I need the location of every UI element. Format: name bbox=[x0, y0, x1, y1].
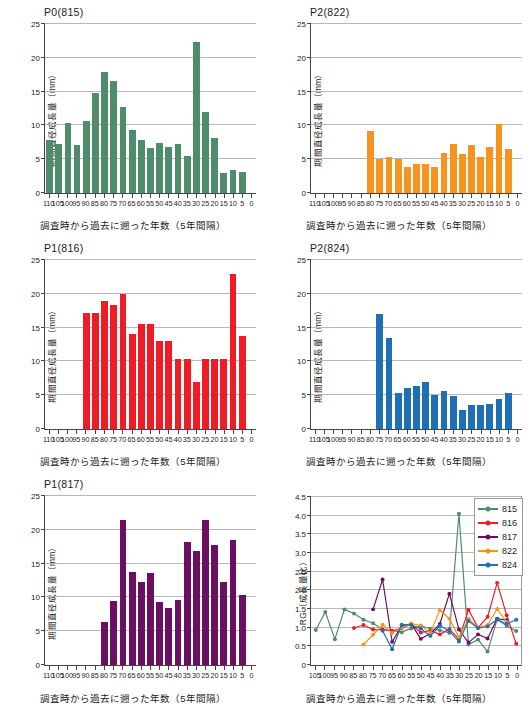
bar-slot bbox=[504, 24, 513, 193]
data-point-817 bbox=[467, 641, 471, 645]
bar bbox=[110, 305, 117, 429]
y-tick-label: 5 bbox=[302, 155, 306, 164]
x-tick-label: 55 bbox=[146, 199, 154, 208]
bar bbox=[404, 388, 411, 429]
bar bbox=[496, 399, 503, 429]
x-tick-label: 55 bbox=[412, 435, 420, 444]
x-tick-mark bbox=[459, 666, 460, 670]
x-tick-label: 10 bbox=[495, 199, 503, 208]
x-tick-mark bbox=[122, 666, 123, 670]
bar bbox=[165, 341, 172, 429]
bar-slot bbox=[192, 260, 201, 429]
bar bbox=[175, 359, 182, 429]
x-tick-label: 60 bbox=[398, 671, 406, 680]
bar-slot bbox=[320, 24, 329, 193]
legend-item-815[interactable]: 815 bbox=[478, 502, 517, 516]
bar-slot bbox=[467, 260, 476, 429]
x-tick-marks-p1-817 bbox=[44, 666, 256, 670]
x-tick-mark bbox=[370, 194, 371, 198]
x-tick-mark bbox=[517, 430, 518, 434]
x-tick-mark bbox=[141, 194, 142, 198]
bar-slot bbox=[375, 260, 384, 429]
x-axis-label-rg-ratio: 調査時から過去に遡った年数（5年間隔） bbox=[266, 691, 532, 705]
bar-slot bbox=[82, 260, 91, 429]
x-tick-label: 20 bbox=[477, 199, 485, 208]
y-tick-label: 25 bbox=[31, 256, 40, 265]
x-tick-labels-rg-ratio: 1051009590858075706560555045403530252015… bbox=[296, 671, 532, 683]
x-tick-mark bbox=[85, 430, 86, 434]
x-tick-mark bbox=[141, 430, 142, 434]
x-tick-mark bbox=[49, 666, 50, 670]
x-tick-label: 45 bbox=[430, 199, 438, 208]
bar-slot bbox=[412, 260, 421, 429]
data-point-817 bbox=[381, 578, 385, 582]
data-point-824 bbox=[390, 647, 394, 651]
bar bbox=[165, 608, 172, 665]
legend-item-824[interactable]: 824 bbox=[478, 558, 517, 572]
bar-slot bbox=[45, 24, 54, 193]
x-tick-mark bbox=[462, 430, 463, 434]
legend-swatch-816 bbox=[478, 522, 498, 524]
x-tick-label: 30 bbox=[458, 199, 466, 208]
data-point-816 bbox=[514, 642, 518, 646]
y-tick-label: 25 bbox=[31, 20, 40, 29]
bar-slot bbox=[118, 496, 127, 665]
data-point-815 bbox=[352, 612, 356, 616]
x-tick-label: 70 bbox=[384, 435, 392, 444]
x-tick-mark bbox=[233, 430, 234, 434]
bar-slot bbox=[384, 260, 393, 429]
x-tick-mark bbox=[407, 430, 408, 434]
chart-legend-rg-ratio: 815816817822824 bbox=[474, 498, 523, 576]
x-tick-label: 70 bbox=[384, 199, 392, 208]
x-tick-mark bbox=[444, 430, 445, 434]
bar bbox=[230, 170, 237, 193]
bar-slot bbox=[54, 496, 63, 665]
x-tick-mark bbox=[471, 430, 472, 434]
bar-slot bbox=[164, 24, 173, 193]
bar-slot bbox=[247, 24, 256, 193]
bar bbox=[184, 542, 191, 665]
bar bbox=[477, 405, 484, 429]
bar-slot bbox=[45, 496, 54, 665]
x-tick-mark bbox=[85, 194, 86, 198]
x-tick-label: 75 bbox=[109, 671, 117, 680]
bar bbox=[404, 167, 411, 193]
bar-slot bbox=[247, 496, 256, 665]
x-axis-label-p1-817: 調査時から過去に遡った年数（5年間隔） bbox=[0, 691, 266, 705]
chart-title-p2-822: P2(822) bbox=[310, 6, 349, 18]
bar-slot bbox=[357, 24, 366, 193]
legend-item-817[interactable]: 817 bbox=[478, 530, 517, 544]
bar bbox=[211, 359, 218, 429]
x-tick-label: 35 bbox=[449, 435, 457, 444]
x-tick-label: 55 bbox=[146, 435, 154, 444]
x-tick-label: 80 bbox=[359, 671, 367, 680]
bar-slot bbox=[73, 260, 82, 429]
bar bbox=[441, 153, 448, 193]
bar bbox=[459, 410, 466, 429]
bar bbox=[431, 167, 438, 193]
bar-slot bbox=[63, 496, 72, 665]
x-tick-mark bbox=[402, 666, 403, 670]
legend-label-817: 817 bbox=[502, 532, 517, 542]
bar bbox=[468, 145, 475, 193]
bar bbox=[395, 159, 402, 193]
x-tick-label: 95 bbox=[330, 671, 338, 680]
y-tick-label: 1.0 bbox=[295, 623, 306, 632]
x-tick-label: 90 bbox=[81, 199, 89, 208]
bar-slot bbox=[449, 260, 458, 429]
x-tick-label: 15 bbox=[220, 199, 228, 208]
bar-slot bbox=[348, 24, 357, 193]
x-tick-mark bbox=[95, 666, 96, 670]
bar-slot bbox=[137, 260, 146, 429]
x-tick-mark bbox=[187, 430, 188, 434]
x-tick-mark bbox=[342, 194, 343, 198]
x-tick-mark bbox=[351, 430, 352, 434]
legend-item-822[interactable]: 822 bbox=[478, 544, 517, 558]
x-tick-mark bbox=[242, 666, 243, 670]
x-tick-label: 50 bbox=[155, 199, 163, 208]
bar-slot bbox=[247, 260, 256, 429]
x-tick-label: 40 bbox=[174, 671, 182, 680]
legend-item-816[interactable]: 816 bbox=[478, 516, 517, 530]
bar-slot bbox=[439, 24, 448, 193]
y-tick-label: 0 bbox=[302, 189, 306, 198]
